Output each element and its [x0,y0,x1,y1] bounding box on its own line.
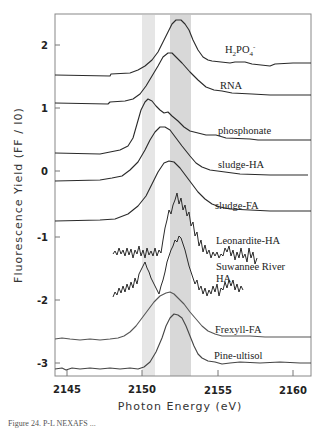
x-tick-label: 2150 [128,384,156,395]
label-rna: RNA [220,80,243,91]
label-phosphonate: phosphonate [218,125,271,136]
label-leonardite-ha: Leonardite-HA [216,235,281,246]
y-tick-label: -1 [37,232,48,243]
y-tick-label: 0 [41,166,48,177]
y-tick-label: -3 [37,358,48,369]
label-frexyll-fa: Frexyll-FA [215,324,262,335]
y-tick-label: 2 [41,40,48,51]
x-axis-label: Photon Energy (eV) [118,400,243,413]
label-suwannee-ha: HA [216,273,232,284]
y-axis [55,45,60,363]
x-tick-label: 2155 [204,385,232,396]
x-tick-label: 2145 [53,384,81,395]
y-tick-label: -2 [37,295,48,306]
label-sludge-ha: sludge-HA [218,159,264,170]
y-axis-label: Fluorescence Yield (FF / I0) [12,107,25,283]
nexafs-chart: 2 1 0 -1 -2 -3 2145 2150 2155 2160 Photo… [0,0,328,428]
label-h2po4: H2PO4- [225,43,256,58]
label-sludge-fa: sludge-FA [215,200,259,211]
x-tick-label: 2160 [279,385,307,396]
y-tick-labels: 2 1 0 -1 -2 -3 [37,40,48,369]
series-labels: H2PO4- RNA phosphonate sludge-HA sludge-… [214,43,286,361]
label-pine-ultisol: Pine-ultisol [214,350,263,361]
y-tick-label: 1 [41,103,48,114]
figure-caption: Figure 24. P-L NEXAFS ... [8,419,96,428]
label-suwannee-river: Suwannee River [216,261,286,272]
x-tick-labels: 2145 2150 2155 2160 [53,384,307,396]
highlight-band-1 [142,15,155,376]
